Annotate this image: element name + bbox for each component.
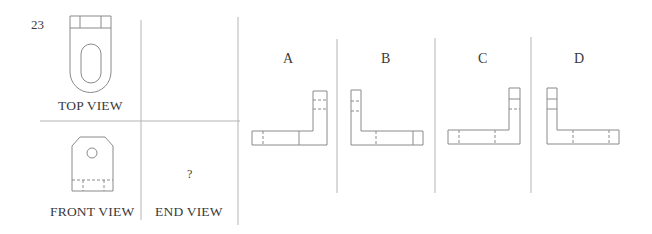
top-view-drawing [70,16,111,92]
top-view-label: TOP VIEW [58,98,123,114]
end-view-placeholder: ? [187,167,192,182]
option-b-drawing [351,90,423,145]
grid-dividers [40,17,531,225]
option-a-drawing [252,91,327,145]
option-c-drawing [448,88,520,144]
end-view-label: END VIEW [155,204,223,220]
front-view-drawing [72,137,113,191]
option-a-label[interactable]: A [283,51,293,67]
option-c-label[interactable]: C [478,51,487,67]
front-view-outline [72,137,113,191]
slot-outline [81,44,101,83]
top-view-outline [70,16,111,92]
drawing-canvas [0,0,652,234]
front-view-label: FRONT VIEW [50,204,134,220]
option-d-drawing [547,88,619,144]
option-d-label[interactable]: D [574,51,584,67]
option-b-label[interactable]: B [381,51,390,67]
hole-circle [87,148,97,158]
